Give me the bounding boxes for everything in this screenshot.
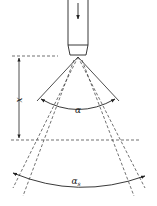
spray-angle-at-distance-label: αs bbox=[71, 176, 80, 187]
spray-cone-dashed bbox=[13, 57, 145, 196]
distance-label: x bbox=[14, 97, 24, 102]
spray-angle-label: α bbox=[75, 105, 81, 115]
spray-cone-solid bbox=[37, 57, 119, 101]
spray-angle-diagram: x α αs bbox=[0, 0, 157, 206]
